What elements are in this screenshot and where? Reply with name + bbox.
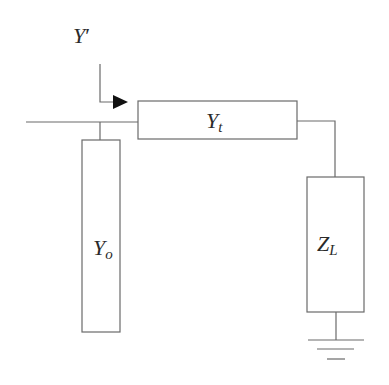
arrow-head-icon [113,95,128,109]
circuit-drawing [0,0,389,385]
ground-icon [308,340,364,359]
stub-admittance-label: Yo [93,237,113,259]
label-subscript: o [105,246,113,262]
circuit-diagram: Y′ Yt Yo ZL [0,0,389,385]
label-base: Y [93,235,105,260]
load-impedance-label: ZL [317,233,338,255]
label-prime: ′ [85,23,90,48]
load-wire [297,121,335,177]
label-subscript: t [218,119,222,135]
label-base: Y [206,108,218,133]
line-admittance-label: Yt [206,110,222,132]
label-base: Y [73,23,85,48]
label-subscript: L [329,242,337,258]
input-admittance-label: Y′ [73,25,90,47]
label-base: Z [317,231,329,256]
